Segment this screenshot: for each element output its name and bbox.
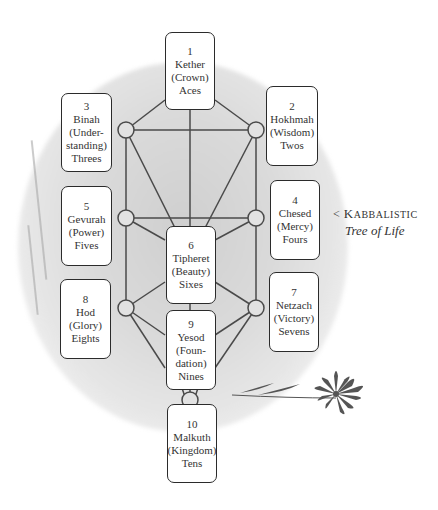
sephirah-netzach: 7 Netzach (Victory) Sevens — [269, 272, 319, 352]
sephirah-meaning: (Kingdom) — [168, 444, 217, 457]
sephirah-meaning: (Crown) — [171, 71, 208, 84]
caption-subtitle: Tree of Life — [345, 223, 418, 239]
sephirah-meaning: (Beauty) — [172, 265, 210, 278]
sephirah-binah: 3 Binah (Under- standing) Threes — [61, 93, 112, 172]
diagram-caption: < KABBALISTIC Tree of Life — [333, 206, 418, 239]
node-circle-gevurah — [118, 210, 134, 226]
sephirah-cards: Eights — [71, 332, 99, 345]
sephirah-meaning: (Mercy) — [277, 220, 313, 233]
node-circle-hokhmah — [248, 122, 264, 138]
node-circle-hod — [118, 300, 134, 316]
sephirah-kether: 1 Kether (Crown) Aces — [165, 32, 215, 110]
sephirah-name: Gevurah — [68, 213, 106, 226]
sephirah-meaning: standing) — [66, 139, 107, 152]
starburst-ornament — [232, 371, 363, 414]
sephirah-gevurah: 5 Gevurah (Power) Fives — [61, 186, 112, 266]
sephirah-cards: Fours — [282, 233, 307, 246]
node-circle-binah — [118, 122, 134, 138]
sephirah-number: 1 — [187, 45, 193, 58]
sephirah-cards: Twos — [280, 139, 304, 152]
sephirah-number: 5 — [84, 200, 90, 213]
sephirah-meaning: dation) — [175, 357, 206, 370]
sephirah-cards: Nines — [178, 370, 204, 383]
sephirah-name: Yesod — [177, 331, 204, 344]
sephirah-malkuth: 10 Malkuth (Kingdom) Tens — [167, 404, 217, 483]
sephirah-number: 2 — [289, 100, 295, 113]
sephirah-meaning: (Power) — [69, 226, 104, 239]
sephirah-hod: 8 Hod (Glory) Eights — [60, 279, 111, 359]
sephirah-number: 7 — [291, 286, 297, 299]
sephirah-cards: Aces — [179, 84, 201, 97]
sephirah-number: 8 — [83, 293, 89, 306]
sephirah-number: 6 — [188, 239, 194, 252]
sephirah-name: Binah — [73, 113, 99, 126]
sephirah-cards: Threes — [72, 152, 102, 165]
sephirah-number: 4 — [292, 194, 298, 207]
node-circle-chesed — [248, 210, 264, 226]
sephirah-cards: Fives — [75, 239, 99, 252]
sephirah-name: Hokhmah — [270, 113, 313, 126]
sephirah-meaning: (Victory) — [274, 312, 314, 325]
left-arrow-icon: < — [333, 207, 340, 221]
sephirah-yesod: 9 Yesod (Foun- dation) Nines — [166, 310, 216, 390]
sephirah-tipheret: 6 Tipheret (Beauty) Sixes — [166, 226, 216, 304]
node-circle-netzach — [248, 300, 264, 316]
sephirah-hokhmah: 2 Hokhmah (Wisdom) Twos — [266, 86, 318, 166]
sephirah-name: Tipheret — [173, 252, 210, 265]
sephirah-name: Kether — [175, 58, 205, 71]
sephirah-name: Hod — [76, 306, 95, 319]
sephirah-number: 10 — [187, 418, 198, 431]
sephirah-name: Malkuth — [173, 431, 210, 444]
sephirah-cards: Sixes — [179, 278, 203, 291]
sephirah-number: 3 — [84, 100, 90, 113]
caption-title: < KABBALISTIC — [333, 206, 418, 222]
sephirah-number: 9 — [188, 318, 194, 331]
sephirah-meaning: (Wisdom) — [270, 126, 314, 139]
sephirah-name: Netzach — [276, 299, 312, 312]
sephirah-meaning: (Foun- — [176, 344, 206, 357]
sephirah-cards: Tens — [182, 457, 203, 470]
sephirah-cards: Sevens — [278, 325, 309, 338]
sephirah-name: Chesed — [279, 207, 311, 220]
sephirah-chesed: 4 Chesed (Mercy) Fours — [270, 180, 320, 260]
sephirah-meaning: (Under- — [69, 126, 104, 139]
sephirah-meaning: (Glory) — [69, 319, 102, 332]
